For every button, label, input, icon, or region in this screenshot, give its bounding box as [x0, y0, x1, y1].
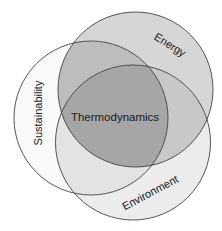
sustainability-label: Sustainability [32, 80, 44, 145]
venn-diagram: Energy Sustainability Environment Thermo… [0, 0, 222, 231]
center-label: Thermodynamics [71, 111, 159, 123]
